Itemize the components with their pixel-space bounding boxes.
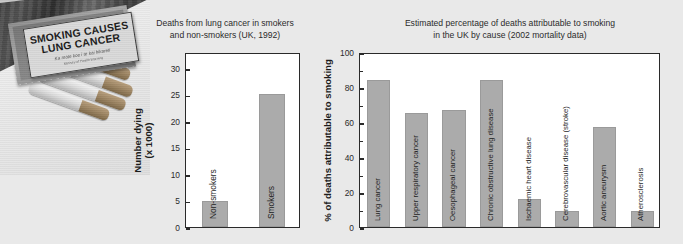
y-axis-tick-label: 60 [324, 118, 354, 128]
chart-title: Estimated percentage of deaths attributa… [350, 18, 670, 41]
y-axis-minor-tick-mark [360, 71, 363, 72]
y-axis-minor-tick-mark [360, 141, 363, 142]
bar-category-label: Atherosclerosis [636, 168, 645, 221]
y-axis-tick-label: 5 [150, 196, 180, 206]
y-axis-tick-label: 30 [150, 64, 180, 74]
y-axis-tick-mark [360, 193, 364, 194]
bar-category-label: Non-smokers [208, 169, 218, 219]
y-axis-tick-mark [186, 228, 190, 229]
y-axis-tick-mark [186, 122, 190, 123]
plot-area: Non-smokersSmokers 051015202530 [185, 53, 300, 228]
y-axis-tick-mark [360, 228, 364, 229]
y-axis-tick-label: 20 [150, 117, 180, 127]
y-axis-tick-label: 80 [324, 83, 354, 93]
bar-category-label: Cerebrovascular disease (stroke) [561, 106, 570, 221]
y-axis-tick-mark [186, 202, 190, 203]
figure-root: SMOKING CAUSES LUNG CANCER Ka mate koe i… [0, 0, 683, 244]
y-axis-tick-label: 10 [150, 170, 180, 180]
y-axis-tick-mark [186, 149, 190, 150]
y-axis-tick-mark [186, 175, 190, 176]
chart-deaths-attributable-to-smoking: Estimated percentage of deaths attributa… [320, 0, 683, 244]
bars-container: Lung cancerUpper respiratory cancerOesop… [360, 54, 659, 227]
bar-category-label: Smokers [266, 186, 276, 219]
bar-category-label: Oesophageal cancer [448, 149, 457, 221]
y-axis-tick-label: 25 [150, 90, 180, 100]
y-axis-tick-label: 0 [324, 223, 354, 233]
y-axis-tick-mark [360, 53, 364, 54]
y-axis-tick-label: 15 [150, 143, 180, 153]
cigarette-pack-photograph: SMOKING CAUSES LUNG CANCER Ka mate koe i… [0, 0, 150, 175]
y-axis-tick-mark [186, 69, 190, 70]
bar-category-label: Chronic obstructive lung disease [486, 108, 495, 221]
y-axis-tick-mark [360, 123, 364, 124]
plot-area: Lung cancerUpper respiratory cancerOesop… [359, 53, 660, 228]
y-axis-minor-tick-mark [360, 176, 363, 177]
bar-category-label: Upper respiratory cancer [411, 135, 420, 221]
y-axis-tick-mark [360, 158, 364, 159]
y-axis-label: % of deaths attributable to smoking [322, 53, 333, 228]
bar-category-label: Ischaemic heart disease [524, 137, 533, 221]
bar-category-label: Aortic aneurysm [599, 165, 608, 221]
y-axis-minor-tick-mark [360, 211, 363, 212]
y-axis-tick-mark [186, 96, 190, 97]
y-axis-tick-label: 20 [324, 188, 354, 198]
y-axis-tick-label: 0 [150, 223, 180, 233]
y-axis-minor-tick-mark [360, 106, 363, 107]
y-axis-tick-mark [360, 88, 364, 89]
bars-container: Non-smokersSmokers [186, 54, 299, 227]
y-axis-tick-label: 100 [324, 48, 354, 58]
chart-title: Deaths from lung cancer in smokers and n… [132, 18, 318, 41]
bar-category-label: Lung cancer [373, 178, 382, 221]
chart-lung-cancer-deaths: Deaths from lung cancer in smokers and n… [130, 0, 320, 244]
y-axis-tick-label: 40 [324, 153, 354, 163]
